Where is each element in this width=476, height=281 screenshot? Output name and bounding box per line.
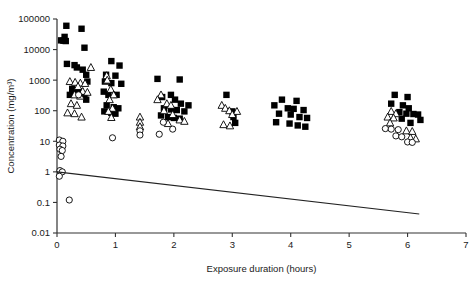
data-point-triangle (220, 121, 227, 128)
data-point-square (78, 26, 84, 32)
x-tick-label: 4 (288, 239, 293, 250)
data-point-triangle (64, 109, 71, 116)
data-point-triangle (409, 128, 416, 135)
data-point-square (63, 38, 69, 44)
data-point-square (116, 62, 122, 68)
data-point-square (295, 122, 301, 128)
data-point-triangle (73, 101, 80, 108)
data-point-circle (156, 131, 162, 137)
x-tick-label: 7 (463, 239, 468, 250)
data-point-square (64, 61, 70, 67)
data-point-square (404, 94, 410, 100)
data-point-square (285, 105, 291, 111)
data-point-square (232, 120, 238, 126)
data-point-square (304, 115, 310, 121)
data-point-square (388, 100, 394, 106)
data-point-circle (399, 134, 405, 140)
data-point-square (286, 120, 292, 126)
data-point-triangle (67, 100, 74, 107)
data-point-circle (388, 126, 394, 132)
data-point-square (290, 106, 296, 112)
data-point-triangle (78, 113, 85, 120)
axis-tick-marks (53, 19, 466, 237)
chart-canvas: 0.010.1110100100010000100000 01234567 Ex… (0, 0, 476, 281)
y-tick-label: 100 (34, 105, 50, 116)
x-tick-label: 5 (346, 239, 351, 250)
data-point-square (392, 92, 398, 98)
data-point-triangle (71, 110, 78, 117)
y-tick-label: 0.01 (32, 227, 51, 238)
y-tick-label: 1000 (29, 75, 50, 86)
y-tick-label: 100000 (18, 13, 50, 24)
data-point-square (108, 58, 114, 64)
data-point-square (417, 117, 423, 123)
x-tick-label: 0 (54, 239, 59, 250)
data-point-square (154, 76, 160, 82)
data-point-square (178, 100, 184, 106)
data-point-circle (76, 92, 82, 98)
data-point-square (279, 96, 285, 102)
data-point-triangle (87, 64, 94, 71)
data-point-square (400, 102, 406, 108)
data-point-square (296, 114, 302, 120)
data-point-square (273, 119, 279, 125)
data-point-square (288, 111, 294, 117)
data-point-square (223, 92, 229, 98)
data-point-square (118, 81, 124, 87)
scatter-chart: 0.010.1110100100010000100000 01234567 Ex… (0, 0, 476, 281)
data-point-square (74, 64, 80, 70)
y-tick-label: 0.1 (37, 197, 50, 208)
data-point-circle (56, 173, 62, 179)
data-point-circle (109, 135, 115, 141)
y-axis-title: Concentration (mg/m³) (5, 78, 16, 173)
data-points-layer (56, 23, 423, 204)
data-point-circle (409, 139, 415, 145)
y-tick-label: 1 (45, 166, 50, 177)
x-tick-label: 2 (171, 239, 176, 250)
y-tick-label: 10 (39, 136, 50, 147)
data-point-square (185, 102, 191, 108)
data-point-square (83, 72, 89, 78)
data-point-square (407, 120, 413, 126)
data-point-circle (66, 197, 72, 203)
data-point-square (172, 96, 178, 102)
data-point-square (177, 76, 183, 82)
data-point-circle (393, 133, 399, 139)
x-tick-label: 3 (230, 239, 235, 250)
data-point-square (83, 96, 89, 102)
data-point-circle (170, 126, 176, 132)
x-tick-label: 1 (113, 239, 118, 250)
x-axis-tick-labels: 01234567 (54, 239, 468, 250)
data-point-square (276, 110, 282, 116)
data-point-circle (160, 119, 166, 125)
y-axis-tick-labels: 0.010.1110100100010000100000 (18, 13, 50, 238)
data-point-circle (59, 147, 65, 153)
regression-trend-line (57, 172, 419, 214)
data-point-square (81, 45, 87, 51)
data-point-square (293, 98, 299, 104)
x-axis-title: Exposure duration (hours) (207, 263, 317, 274)
data-point-square (300, 107, 306, 113)
data-point-circle (58, 153, 64, 159)
data-point-circle (382, 125, 388, 131)
x-tick-label: 6 (405, 239, 410, 250)
data-point-circle (137, 132, 143, 138)
data-point-square (271, 102, 277, 108)
data-point-circle (395, 127, 401, 133)
data-point-square (112, 72, 118, 78)
data-point-square (181, 108, 187, 114)
y-tick-label: 10000 (24, 44, 50, 55)
data-point-square (63, 23, 69, 29)
data-point-square (302, 123, 308, 129)
